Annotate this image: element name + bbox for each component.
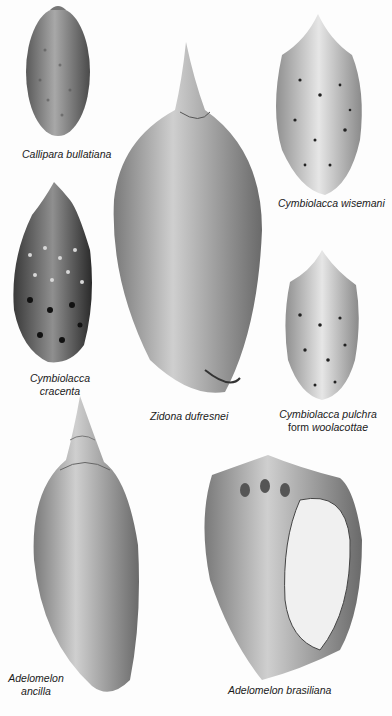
- cymbiolacca-cracenta-shell: [13, 182, 92, 362]
- cymbiolacca-wisemani-shell: [276, 14, 362, 195]
- callipara-bullatiana-shell: [26, 6, 90, 136]
- adelomelon-brasiliana-shell: [204, 455, 362, 680]
- caption-adelomelon-ancilla: Adelomelon ancilla: [4, 672, 68, 698]
- caption-zidona-dufresnei: Zidona dufresnei: [150, 410, 228, 423]
- zidona-dufresnei-shell: [114, 42, 262, 393]
- cymbiolacca-pulchra-shell: [285, 250, 358, 400]
- shell-drawings: [0, 0, 392, 716]
- caption-cymbiolacca-cracenta: Cymbiolacca cracenta: [14, 372, 106, 398]
- caption-callipara-bullatiana: Callipara bullatiana: [22, 148, 111, 161]
- adelomelon-ancilla-shell: [34, 396, 139, 692]
- caption-cymbiolacca-wisemani: Cymbiolacca wisemani: [278, 197, 385, 210]
- caption-adelomelon-brasiliana: Adelomelon brasiliana: [228, 684, 331, 697]
- shell-illustration-plate: Callipara bullatiana Zidona dufresnei Cy…: [0, 0, 392, 716]
- caption-cymbiolacca-pulchra: Cymbiolacca pulchra form woolacottae: [268, 408, 388, 434]
